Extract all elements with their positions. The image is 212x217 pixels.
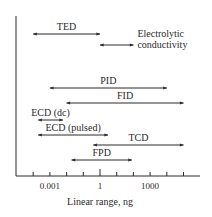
range-label: TED — [57, 21, 76, 32]
range-label: FPD — [93, 147, 111, 158]
range-label: Electrolytic — [137, 28, 184, 39]
range-label: conductivity — [137, 39, 187, 50]
range-tcd: TCD — [93, 132, 183, 145]
range-ted: TED — [33, 21, 100, 34]
linear-range-chart: 0.00111000 TEDElectrolyticconductivityPI… — [0, 0, 212, 217]
range-fid: FID — [67, 90, 184, 103]
range-pid: PID — [50, 75, 167, 88]
x-tick-label: 1000 — [141, 181, 160, 191]
x-axis-ticks — [33, 169, 183, 176]
x-tick-label: 1 — [98, 181, 103, 191]
range-ecd-pulsed: ECD (pulsed) — [38, 122, 108, 135]
x-tick-label: 0.001 — [40, 181, 60, 191]
range-fpd: FPD — [72, 147, 132, 160]
x-axis-tick-labels: 0.00111000 — [40, 181, 160, 191]
range-label: FID — [117, 90, 133, 101]
range-label: TCD — [128, 132, 148, 143]
range-label: PID — [100, 75, 116, 86]
range-ecd-dc: ECD (dc) — [31, 107, 70, 120]
range-label: ECD (pulsed) — [45, 122, 100, 134]
chart-svg: 0.00111000 TEDElectrolyticconductivityPI… — [0, 0, 212, 217]
range-electrolytic-conductivity: Electrolyticconductivity — [100, 28, 187, 50]
range-label: ECD (dc) — [31, 107, 70, 119]
range-arrows: TEDElectrolyticconductivityPIDFIDECD (dc… — [31, 21, 187, 160]
x-axis-title: Linear range, ng — [67, 196, 133, 207]
